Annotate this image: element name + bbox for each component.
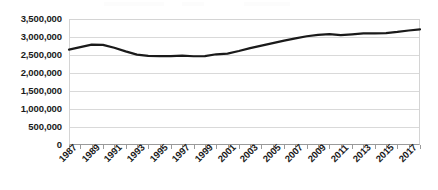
x-tick-label: 1999 (193, 142, 215, 164)
x-tick-label: 1987 (57, 142, 79, 164)
x-axis: 1987198919911993199519971999200120032005… (0, 0, 438, 190)
x-tick-label: 1993 (125, 142, 147, 164)
x-tick-label: 2011 (329, 143, 350, 164)
x-tick-label: 1991 (102, 142, 124, 164)
x-tick-label: 2017 (397, 142, 419, 164)
x-tick-label: 2007 (283, 142, 305, 164)
x-tick-label: 2003 (238, 142, 260, 164)
x-tick-label: 2013 (351, 142, 373, 164)
x-tick-label: 2009 (306, 142, 328, 164)
x-tick-label: 2005 (261, 142, 283, 164)
x-tick-label: 1995 (148, 142, 170, 164)
x-tick-label: 2001 (216, 142, 238, 164)
x-tick-label: 2015 (374, 142, 396, 164)
x-tick-label: 1997 (170, 142, 192, 164)
x-tick-label: 1989 (80, 142, 102, 164)
line-chart: 3,500,0003,000,0002,500,0002,000,0001,50… (0, 0, 438, 190)
